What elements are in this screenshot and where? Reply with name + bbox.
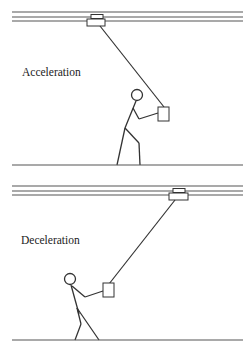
- deceleration-diagram: [0, 174, 248, 348]
- acceleration-label: Acceleration: [22, 66, 81, 78]
- cable: [109, 200, 175, 284]
- stick-figure-person: [65, 274, 104, 341]
- acceleration-diagram: [0, 0, 248, 174]
- trolley: [87, 15, 105, 27]
- stick-figure-person: [117, 90, 158, 166]
- deceleration-panel: Deceleration: [0, 174, 248, 348]
- acceleration-panel: Acceleration: [0, 0, 248, 174]
- load-box: [158, 107, 169, 121]
- load-box: [103, 283, 114, 297]
- overhead-rail: [12, 12, 243, 21]
- overhead-rail: [12, 186, 243, 195]
- deceleration-label: Deceleration: [21, 234, 80, 246]
- trolley: [169, 189, 188, 201]
